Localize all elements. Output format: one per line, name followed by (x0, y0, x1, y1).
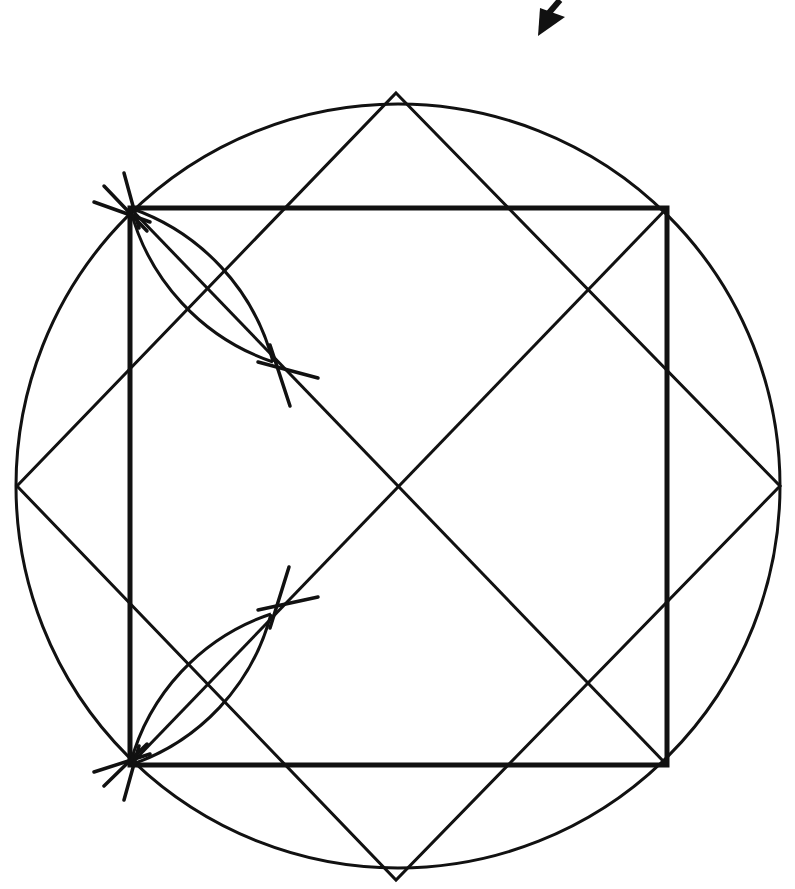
arc-tick-mark (258, 597, 318, 610)
arrow-icon (538, 0, 565, 36)
diagram-canvas (0, 0, 795, 889)
construction-diagram (0, 0, 795, 889)
square-diagonals (130, 208, 667, 765)
arc-tick-mark (270, 345, 290, 406)
arc-tick-mark (258, 362, 318, 378)
arc-tick-mark (270, 567, 289, 628)
